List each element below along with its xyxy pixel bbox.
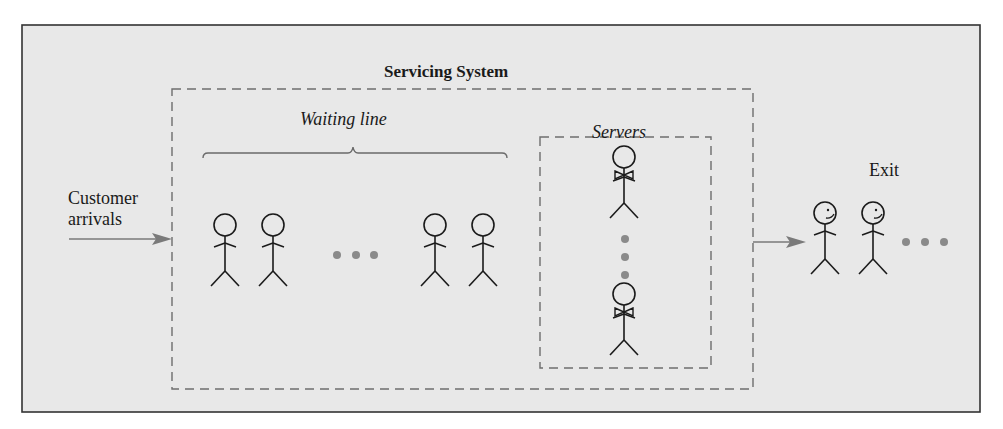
waiting-line-label: Waiting line [300,109,387,130]
waiting-line-ellipsis-icon [333,251,378,259]
arrivals-label-line1: Customer [68,188,138,209]
arrivals-label-line2: arrivals [68,209,122,230]
outer-frame [22,25,980,412]
servers-ellipsis-icon [621,235,629,279]
servers-label: Servers [592,122,646,143]
servicing-system-title: Servicing System [384,62,508,82]
queueing-system-diagram: Servicing System Waiting line Servers Cu… [0,0,1003,429]
exit-label: Exit [869,160,899,181]
